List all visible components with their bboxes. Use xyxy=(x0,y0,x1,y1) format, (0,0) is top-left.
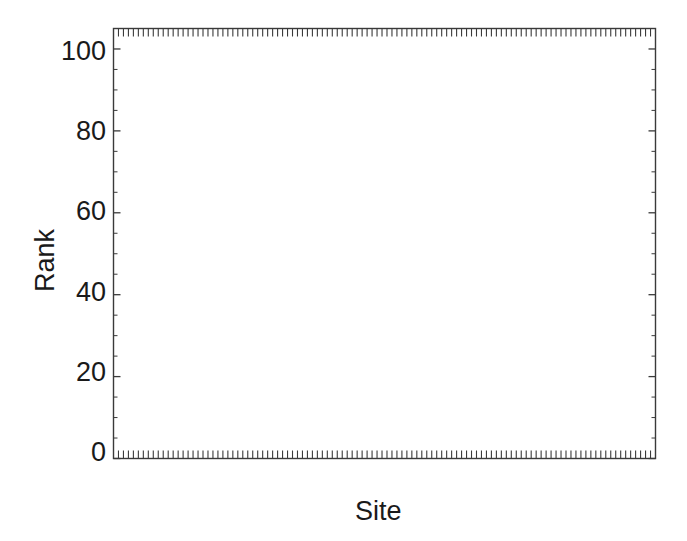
y-tick-label-20: 20 xyxy=(18,357,106,388)
y-tick-label-80: 80 xyxy=(18,116,106,147)
boxplot-figure: 100 80 60 40 20 0 Rank Site xyxy=(0,0,687,541)
y-tick-label-0: 0 xyxy=(18,437,106,468)
x-axis-title: Site xyxy=(355,496,402,527)
plot-frame xyxy=(114,29,656,459)
axis-ticks xyxy=(114,29,656,459)
y-axis-title: Rank xyxy=(30,229,61,292)
y-tick-label-60: 60 xyxy=(18,196,106,227)
y-tick-label-100: 100 xyxy=(18,36,106,67)
